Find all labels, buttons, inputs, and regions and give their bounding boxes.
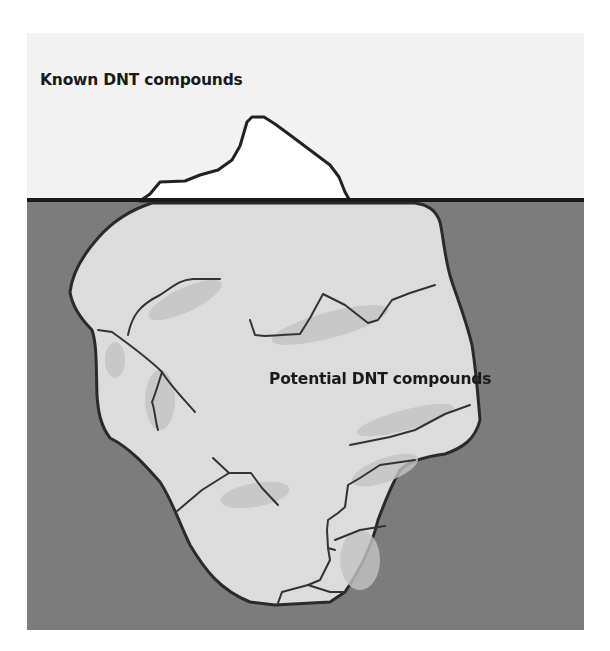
iceberg-diagram: Known DNT compounds Potential DNT compou… (0, 0, 610, 651)
iceberg-illustration (0, 0, 610, 651)
waterline (27, 198, 584, 202)
known-compounds-label: Known DNT compounds (40, 71, 243, 89)
potential-compounds-label: Potential DNT compounds (269, 370, 491, 388)
